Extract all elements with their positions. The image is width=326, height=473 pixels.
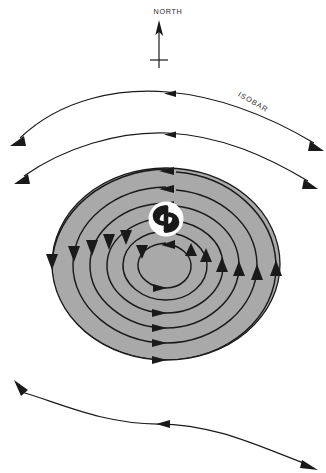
lower-isobar-mid-arrowhead-icon xyxy=(156,420,170,428)
isobar-label: ISOBAR xyxy=(237,90,270,114)
north-label: NORTH xyxy=(154,7,183,16)
storm-disc-group xyxy=(46,167,282,364)
storm-eye-group xyxy=(149,202,184,237)
north-compass: NORTH xyxy=(150,7,182,68)
isobar-annotation: ISOBAR xyxy=(237,90,270,114)
upper-outer-isobar-left-arrowhead-icon xyxy=(10,136,26,146)
upper-outer-isobar xyxy=(10,90,324,151)
lower-isobar-line xyxy=(22,392,306,464)
lower-isobar xyxy=(14,380,318,470)
upper-inner-isobar-left-arrowhead-icon xyxy=(14,174,30,184)
upper-inner-isobar-right-arrowhead-icon xyxy=(302,179,318,189)
cyclone-isobar-figure: NORTH ISOBAR xyxy=(0,0,326,473)
lower-isobar-right-arrowhead-icon xyxy=(300,460,318,470)
upper-outer-isobar-right-arrowhead-icon xyxy=(308,141,324,151)
diagram-canvas: NORTH ISOBAR xyxy=(0,0,326,473)
